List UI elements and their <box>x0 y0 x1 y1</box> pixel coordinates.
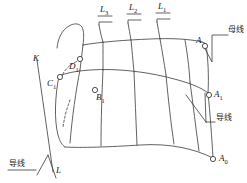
generatrix-L1-upper <box>160 39 166 75</box>
point-label-A0-sub: 0 <box>225 158 228 165</box>
leader-L1-stem <box>157 22 160 39</box>
point-label-C1-sub: 1 <box>53 83 56 90</box>
leader-L2 <box>128 20 141 23</box>
line-label-L: L <box>56 166 61 175</box>
diagram-vector-graphics <box>0 0 247 183</box>
point-label-D1: D1 <box>69 62 79 73</box>
leader-L2-stem <box>128 23 131 40</box>
left-rolled-edge-upper <box>57 24 84 48</box>
generatrix-right-upper <box>185 40 190 82</box>
point-label-B1-sub: 1 <box>102 97 105 104</box>
line-K <box>37 60 53 172</box>
right-edge-A1-to-A0 <box>208 93 213 158</box>
grid-label-L3-sub: 3 <box>105 9 108 16</box>
point-label-A1: A1 <box>214 90 223 101</box>
figure-canvas: L3 L2 L1 A A1 A0 B1 C1 D1 K L 母线 导线 导线 <box>0 0 247 183</box>
annotation-busbar: 母线 <box>228 26 244 34</box>
point-label-A: A <box>196 36 202 47</box>
generatrix-L3-lower <box>101 70 103 146</box>
line-L-right-leg <box>48 155 56 178</box>
point-label-C1: C1 <box>47 79 56 90</box>
point-label-A0: A0 <box>219 154 228 165</box>
node-D1 <box>77 56 82 61</box>
point-label-B1: B1 <box>96 93 105 104</box>
node-A1 <box>206 92 211 97</box>
node-C1 <box>57 74 62 79</box>
generatrix-L1-lower <box>166 75 174 144</box>
annotation-conductor-left: 导线 <box>9 160 25 168</box>
leader-conductor-right-b <box>205 93 206 122</box>
leader-conductor-right-a <box>186 95 206 122</box>
annotation-conductor-right: 导线 <box>216 114 232 122</box>
generatrix-right-lower <box>190 82 199 151</box>
surface-outline-group <box>8 13 228 178</box>
point-label-A-text: A <box>196 35 202 45</box>
node-A0 <box>210 156 215 161</box>
grid-label-L2: L2 <box>129 3 137 14</box>
upper-boundary-curve <box>83 39 202 45</box>
grid-label-L3: L3 <box>100 5 108 16</box>
lower-boundary-curve <box>65 145 213 158</box>
grid-label-L2-sub: 2 <box>134 7 137 14</box>
node-A <box>202 43 207 48</box>
line-label-K: K <box>33 54 39 63</box>
hidden-fold-line-lower <box>63 100 70 128</box>
leader-L1 <box>157 19 170 22</box>
point-label-A1-sub: 1 <box>220 94 223 101</box>
leader-L3-stem <box>99 25 103 42</box>
generatrix-L2-upper <box>131 40 134 72</box>
leader-L3 <box>99 22 112 25</box>
point-label-D1-sub: 1 <box>76 66 79 73</box>
middle-boundary-curve <box>59 69 208 93</box>
generatrix-L2-lower <box>134 72 137 145</box>
grid-label-L1-sub: 1 <box>163 6 166 13</box>
grid-label-L1: L1 <box>158 2 166 13</box>
line-L-left-leg <box>37 155 48 175</box>
left-rolled-edge-lower <box>55 76 65 147</box>
generatrix-left-lower <box>70 70 80 143</box>
